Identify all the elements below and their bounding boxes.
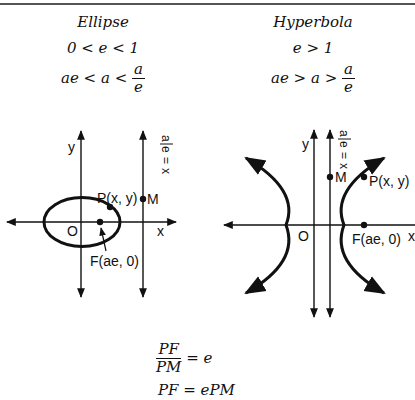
product-formula: PF = ePM — [158, 381, 235, 399]
hyperbola-point-p — [361, 174, 367, 180]
ellipse-directrix-label: a e = x — [159, 135, 173, 174]
svg-text:a: a — [159, 135, 173, 142]
ratio-formula: PF PM = e — [156, 342, 212, 375]
ellipse-p-label: P(x, y) — [97, 190, 137, 206]
ellipse-x-label: x — [157, 223, 164, 239]
ellipse-diagram: y x O P(x, y) M F(ae, 0) a e = x — [7, 131, 176, 297]
hyperbola-x-label: x — [408, 228, 415, 244]
ellipse-origin-label: O — [67, 223, 78, 239]
ratio-rhs: = e — [186, 349, 212, 367]
hyperbola-m-label: M — [335, 169, 347, 185]
svg-text:=: = — [159, 157, 173, 164]
hyperbola-diagram: y x O M P(x, y) F(ae, 0) a e = x — [224, 130, 415, 317]
ellipse-focus-label: F(ae, 0) — [90, 253, 139, 269]
ellipse-y-label: y — [68, 139, 75, 155]
hyperbola-p-label: P(x, y) — [369, 173, 409, 189]
svg-text:x: x — [159, 168, 173, 174]
hyperbola-point-m — [327, 174, 333, 180]
conic-diagrams: y x O P(x, y) M F(ae, 0) a e = x y x O M… — [0, 0, 415, 400]
svg-text:e: e — [337, 141, 351, 148]
ratio-fraction: PF PM — [156, 342, 181, 375]
svg-text:=: = — [337, 152, 351, 159]
hyperbola-origin-label: O — [298, 228, 309, 244]
hyperbola-focus-point — [361, 222, 367, 228]
hyperbola-directrix-label: a e = x — [337, 130, 351, 169]
ellipse-focus-point — [97, 219, 103, 225]
ratio-numerator: PF — [156, 342, 181, 359]
focus-pointer-arrow — [101, 228, 106, 251]
svg-text:x: x — [337, 163, 351, 169]
hyperbola-y-label: y — [302, 136, 309, 152]
ellipse-point-m — [140, 196, 146, 202]
hyperbola-focus-label: F(ae, 0) — [352, 231, 401, 247]
svg-text:e: e — [159, 146, 173, 153]
ellipse-m-label: M — [147, 191, 159, 207]
ratio-denominator: PM — [156, 359, 181, 375]
svg-text:a: a — [337, 130, 351, 137]
